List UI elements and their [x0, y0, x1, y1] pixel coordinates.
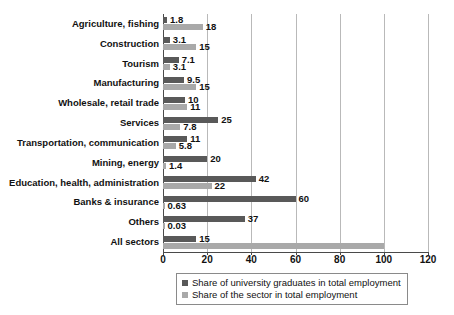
bar-value-label: 3.1 [173, 62, 186, 72]
bar-sector [163, 243, 384, 249]
chart-category-row: Agriculture, fishing1.818 [163, 14, 428, 34]
legend-swatch-dark-icon [182, 280, 188, 286]
x-tick-label-0: 0 [160, 255, 166, 265]
category-label: Education, health, administration [9, 178, 159, 188]
legend-label-sector: Share of the sector in total employment [192, 290, 357, 300]
bar-value-label: 5.8 [179, 141, 192, 151]
legend-item-graduates: Share of university graduates in total e… [182, 277, 401, 289]
legend-label-graduates: Share of university graduates in total e… [192, 278, 401, 288]
bar-graduates: 10 [163, 97, 185, 103]
x-tick-label-20: 20 [202, 255, 213, 265]
bar-value-label: 0.03 [168, 221, 187, 231]
chart-category-row: Tourism7.13.1 [163, 54, 428, 74]
category-label: Services [120, 118, 159, 128]
bar-value-label: 0.63 [168, 201, 187, 211]
bar-sector: 0.03 [163, 223, 165, 229]
x-tick-label-120: 120 [420, 255, 437, 265]
x-tick-label-60: 60 [290, 255, 301, 265]
bar-value-label: 22 [215, 181, 226, 191]
bar-chart: Agriculture, fishing1.818Construction3.1… [0, 0, 454, 315]
category-label: Others [128, 217, 159, 227]
bar-sector: 3.1 [163, 64, 170, 70]
bar-sector: 7.8 [163, 124, 180, 130]
bar-value-label: 11 [190, 102, 200, 112]
bar-value-label: 25 [221, 115, 232, 125]
bar-graduates: 3.1 [163, 37, 170, 43]
chart-category-row: Wholesale, retail trade1011 [163, 93, 428, 113]
bar-sector: 0.63 [163, 203, 165, 209]
chart-legend: Share of university graduates in total e… [176, 273, 408, 305]
chart-category-row: Transportation, communication115.8 [163, 133, 428, 153]
bar-sector: 18 [163, 24, 203, 30]
bar-sector: 15 [163, 84, 196, 90]
gridline-120 [428, 14, 429, 252]
bar-value-label: 7.8 [183, 122, 196, 132]
category-label: Construction [100, 39, 159, 49]
category-label: Banks & insurance [73, 197, 159, 207]
bar-value-label: 15 [199, 42, 210, 52]
bar-sector: 15 [163, 44, 196, 50]
bar-graduates: 15 [163, 236, 196, 242]
chart-category-row: Services257.8 [163, 113, 428, 133]
bar-value-label: 20 [210, 154, 221, 164]
category-label: All sectors [110, 237, 159, 247]
bar-graduates: 42 [163, 176, 256, 182]
category-label: Manufacturing [94, 78, 159, 88]
chart-category-row: Others370.03 [163, 212, 428, 232]
category-label: Mining, energy [92, 158, 159, 168]
bar-value-label: 37 [248, 214, 259, 224]
chart-category-row: Manufacturing9.515 [163, 74, 428, 94]
category-label: Tourism [122, 59, 159, 69]
x-tick-label-100: 100 [375, 255, 392, 265]
bar-value-label: 1.4 [169, 161, 182, 171]
plot-area: Agriculture, fishing1.818Construction3.1… [163, 14, 428, 252]
bar-value-label: 60 [299, 194, 310, 204]
bar-graduates: 9.5 [163, 77, 184, 83]
chart-category-row: Education, health, administration4222 [163, 173, 428, 193]
x-tick-label-40: 40 [246, 255, 257, 265]
bar-value-label: 15 [199, 82, 210, 92]
bar-value-label: 42 [259, 174, 270, 184]
legend-swatch-light-icon [182, 292, 188, 298]
bar-sector: 1.4 [163, 163, 166, 169]
legend-item-sector: Share of the sector in total employment [182, 289, 401, 301]
chart-category-row: All sectors15 [163, 232, 428, 252]
chart-category-row: Mining, energy201.4 [163, 153, 428, 173]
bar-sector: 11 [163, 104, 187, 110]
bar-value-label: 18 [206, 22, 217, 32]
chart-category-row: Construction3.115 [163, 34, 428, 54]
category-label: Wholesale, retail trade [58, 98, 159, 108]
category-label: Agriculture, fishing [72, 19, 159, 29]
chart-category-row: Banks & insurance600.63 [163, 193, 428, 213]
category-label: Transportation, communication [17, 138, 159, 148]
bar-sector: 5.8 [163, 143, 176, 149]
bar-graduates: 1.8 [163, 17, 167, 23]
bar-sector: 22 [163, 183, 212, 189]
x-tick-label-80: 80 [334, 255, 345, 265]
